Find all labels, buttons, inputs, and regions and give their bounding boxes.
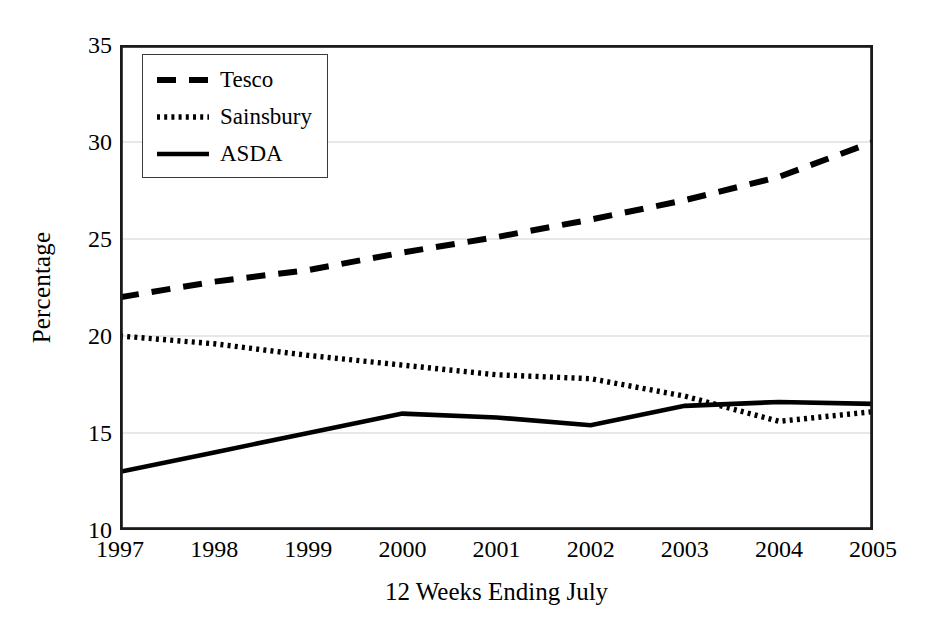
legend-item-sainsbury: Sainsbury (143, 100, 329, 134)
x-tick-label-2003: 2003 (635, 536, 735, 562)
x-tick-label-1997: 1997 (70, 536, 170, 562)
x-tick-label-2004: 2004 (729, 536, 829, 562)
legend-label-asda: ASDA (220, 142, 283, 166)
x-tick-label-2005: 2005 (823, 536, 923, 562)
x-tick-label-2001: 2001 (447, 536, 547, 562)
x-tick-label-1999: 1999 (258, 536, 358, 562)
chart-figure: Percentage 101520253035 1997199819992000… (0, 0, 933, 642)
legend-label-tesco: Tesco (220, 68, 273, 92)
x-tick-label-2002: 2002 (541, 536, 641, 562)
legend-swatch-dashed-icon (157, 72, 209, 88)
x-tick-label-2000: 2000 (352, 536, 452, 562)
legend-label-sainsbury: Sainsbury (220, 105, 312, 129)
legend-item-asda: ASDA (143, 137, 329, 171)
series-line-asda (120, 402, 873, 472)
data-series-group (120, 142, 873, 472)
legend-swatch-dotted-icon (157, 109, 209, 125)
legend-item-tesco: Tesco (143, 63, 329, 97)
x-tick-label-1998: 1998 (164, 536, 264, 562)
chart-legend: Tesco Sainsbury ASDA (142, 54, 328, 178)
x-axis-title: 12 Weeks Ending July (120, 578, 873, 606)
series-line-sainsbury (120, 336, 873, 421)
gridlines (120, 142, 873, 433)
legend-swatch-solid-icon (157, 146, 209, 162)
